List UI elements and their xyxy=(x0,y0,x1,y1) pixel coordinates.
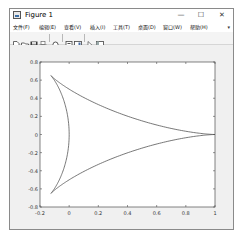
toolbar-separator xyxy=(62,34,63,42)
x-tick-label: 0.8 xyxy=(182,210,190,216)
x-tick-label: 0.6 xyxy=(153,210,161,216)
link-plot-icon[interactable] xyxy=(65,34,73,42)
menu-view[interactable]: 查看(V) xyxy=(64,22,81,32)
property-inspector-icon[interactable] xyxy=(96,34,104,42)
menu-window[interactable]: 窗口(W) xyxy=(163,22,182,32)
x-tick-label: 0.2 xyxy=(94,210,102,216)
y-tick-label: 0 xyxy=(35,132,38,138)
y-tick-label: 0.4 xyxy=(30,95,38,101)
menu-insert[interactable]: 插入(I) xyxy=(90,22,105,32)
menu-edit[interactable]: 编辑(E) xyxy=(39,22,56,32)
y-tick-label: 0.6 xyxy=(30,77,38,83)
toolbar-separator xyxy=(49,34,50,42)
y-tick-label: -0.4 xyxy=(28,168,38,174)
zoom-icon[interactable] xyxy=(52,34,60,42)
open-file-icon[interactable] xyxy=(21,34,29,42)
print-icon[interactable] xyxy=(39,34,47,42)
title-bar[interactable]: Figure 1 — ☐ ✕ xyxy=(10,9,233,22)
minimize-button[interactable]: — xyxy=(173,9,189,22)
menu-desktop[interactable]: 桌面(D) xyxy=(138,22,156,32)
y-tick-label: -0.8 xyxy=(28,204,38,210)
maximize-button[interactable]: ☐ xyxy=(193,9,209,22)
menu-overflow-icon[interactable]: ▾ xyxy=(227,23,230,32)
plot-axes[interactable]: -0.200.20.40.60.81-0.8-0.6-0.4-0.200.20.… xyxy=(10,45,233,230)
window-title: Figure 1 xyxy=(25,10,53,20)
new-figure-icon[interactable] xyxy=(12,34,20,42)
toolbar-separator xyxy=(84,34,85,42)
toolbar xyxy=(10,32,233,45)
x-tick-label: 1 xyxy=(213,210,216,216)
axes-box xyxy=(40,62,215,207)
menu-tools[interactable]: 工具(T) xyxy=(113,22,130,32)
x-tick-label: -0.2 xyxy=(35,210,45,216)
save-icon[interactable] xyxy=(30,34,38,42)
x-tick-label: 0.4 xyxy=(124,210,132,216)
figure-window: Figure 1 — ☐ ✕ 文件(F) 编辑(E) 查看(V) 插入(I) 工… xyxy=(9,8,234,230)
edit-plot-icon[interactable] xyxy=(87,34,95,42)
y-tick-label: -0.6 xyxy=(28,186,38,192)
menu-help[interactable]: 帮助(H) xyxy=(190,22,208,32)
figure-canvas[interactable]: -0.200.20.40.60.81-0.8-0.6-0.4-0.200.20.… xyxy=(10,45,233,229)
y-tick-label: -0.2 xyxy=(28,150,38,156)
y-tick-label: 0.2 xyxy=(30,113,38,119)
matlab-figure-icon xyxy=(13,11,21,19)
menu-file[interactable]: 文件(F) xyxy=(13,22,30,32)
x-tick-label: 0 xyxy=(68,210,71,216)
menu-bar: 文件(F) 编辑(E) 查看(V) 插入(I) 工具(T) 桌面(D) 窗口(W… xyxy=(10,22,233,32)
insert-colorbar-icon[interactable] xyxy=(74,34,82,42)
y-tick-label: 0.8 xyxy=(30,59,38,65)
close-button[interactable]: ✕ xyxy=(214,9,230,22)
